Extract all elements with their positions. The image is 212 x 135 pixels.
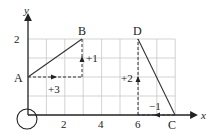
point-a-label: A <box>14 71 23 85</box>
point-c-label: C <box>168 118 176 132</box>
y-axis-label: y <box>23 4 29 16</box>
ab-rise-arrowhead-icon <box>80 56 85 62</box>
ab-run-label: +3 <box>48 83 60 95</box>
x-axis-label: x <box>200 109 206 121</box>
ab-run-arrowhead-icon <box>51 75 57 80</box>
cd-rise-label: +2 <box>121 72 133 84</box>
gradient-diagram: x y 2 4 6 2 +3 +1 −1 +2 A B C D <box>0 0 212 135</box>
x-tick-6: 6 <box>135 118 141 130</box>
origin-circle-icon <box>17 109 37 129</box>
x-tick-4: 4 <box>98 118 104 130</box>
point-d-label: D <box>133 24 142 38</box>
cd-run-label: −1 <box>149 100 161 112</box>
point-b-label: B <box>78 24 86 38</box>
y-tick-2: 2 <box>14 33 20 45</box>
ab-rise-label: +1 <box>86 52 98 64</box>
x-tick-2: 2 <box>61 118 67 130</box>
